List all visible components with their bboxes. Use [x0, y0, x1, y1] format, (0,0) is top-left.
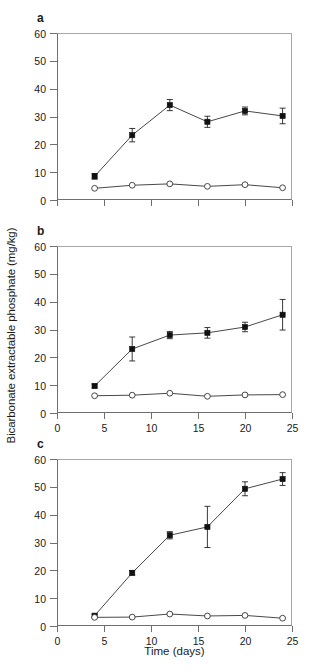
x-axis-title: Time (days) [57, 645, 292, 657]
data-point-filled-square-b-0 [92, 383, 97, 388]
y-tick-b-50: 50 [50, 274, 57, 275]
data-point-open-circle-b-2 [167, 390, 173, 396]
data-point-open-circle-a-2 [167, 181, 173, 187]
x-tick-label-b-20: 20 [240, 422, 252, 434]
y-tick-c-0: 0 [50, 626, 57, 627]
x-tick-label-b-5: 5 [102, 422, 108, 434]
y-tick-b-10: 10 [50, 385, 57, 386]
series-line-open-circle-c [95, 614, 283, 618]
y-tick-a-0: 0 [50, 200, 57, 201]
y-tick-label-b-40: 40 [34, 296, 46, 308]
series-line-filled-square-c [95, 479, 283, 616]
y-tick-a-20: 20 [50, 144, 57, 145]
x-tick-b-20: 20 [245, 413, 246, 419]
panel-label-b: b [37, 224, 44, 238]
y-tick-b-60: 60 [50, 246, 57, 247]
y-tick-label-a-40: 40 [34, 83, 46, 95]
y-tick-label-c-20: 20 [34, 565, 46, 577]
data-point-open-circle-c-4 [242, 613, 248, 619]
y-tick-label-a-20: 20 [34, 139, 46, 151]
y-tick-b-30: 30 [50, 330, 57, 331]
data-point-filled-square-a-1 [130, 133, 135, 138]
y-tick-a-60: 60 [50, 33, 57, 34]
data-point-open-circle-b-5 [280, 392, 286, 398]
y-tick-label-a-10: 10 [34, 167, 46, 179]
data-point-filled-square-a-0 [92, 174, 97, 179]
x-tick-label-b-10: 10 [146, 422, 158, 434]
chart-panel-c: c 01020304050600510152025 [57, 459, 292, 626]
y-tick-label-b-50: 50 [34, 268, 46, 280]
data-point-open-circle-c-1 [129, 614, 135, 620]
data-point-open-circle-b-1 [129, 392, 135, 398]
x-tick-a-0 [57, 200, 58, 206]
data-point-filled-square-c-5 [280, 476, 285, 481]
data-point-open-circle-a-5 [280, 185, 286, 191]
data-point-open-circle-b-0 [92, 393, 98, 399]
y-tick-c-10: 10 [50, 598, 57, 599]
y-tick-label-a-50: 50 [34, 55, 46, 67]
y-tick-label-c-30: 30 [34, 537, 46, 549]
y-tick-label-b-20: 20 [34, 352, 46, 364]
y-tick-a-40: 40 [50, 89, 57, 90]
x-tick-b-0: 0 [57, 413, 58, 419]
data-point-filled-square-b-2 [167, 332, 172, 337]
y-tick-label-a-30: 30 [34, 111, 46, 123]
data-point-filled-square-b-4 [242, 324, 247, 329]
y-tick-b-0: 0 [50, 413, 57, 414]
data-point-filled-square-a-2 [167, 102, 172, 107]
data-point-filled-square-b-1 [130, 346, 135, 351]
x-tick-b-25: 25 [292, 413, 293, 419]
y-tick-label-a-60: 60 [34, 28, 46, 40]
data-point-open-circle-a-0 [92, 185, 98, 191]
data-point-filled-square-a-5 [280, 113, 285, 118]
data-layer-c [57, 459, 292, 626]
x-tick-a-25 [292, 200, 293, 206]
x-tick-b-5: 5 [104, 413, 105, 419]
x-tick-a-20 [245, 200, 246, 206]
data-point-open-circle-a-4 [242, 182, 248, 188]
data-point-filled-square-b-3 [205, 330, 210, 335]
y-tick-label-b-0: 0 [40, 408, 46, 420]
data-point-filled-square-c-2 [167, 533, 172, 538]
x-tick-b-10: 10 [151, 413, 152, 419]
y-tick-c-60: 60 [50, 459, 57, 460]
panel-label-a: a [37, 11, 44, 25]
y-tick-c-20: 20 [50, 570, 57, 571]
x-tick-a-10 [151, 200, 152, 206]
data-point-filled-square-b-5 [280, 312, 285, 317]
x-tick-c-10: 10 [151, 626, 152, 632]
y-tick-b-20: 20 [50, 357, 57, 358]
y-tick-label-c-10: 10 [34, 593, 46, 605]
data-point-open-circle-c-0 [92, 614, 98, 620]
y-tick-c-30: 30 [50, 543, 57, 544]
panel-label-c: c [37, 437, 44, 451]
y-tick-a-30: 30 [50, 117, 57, 118]
x-tick-c-15: 15 [198, 626, 199, 632]
x-tick-label-b-25: 25 [287, 422, 299, 434]
x-tick-c-5: 5 [104, 626, 105, 632]
y-tick-label-b-30: 30 [34, 324, 46, 336]
data-layer-b [57, 246, 292, 413]
series-line-filled-square-b [95, 315, 283, 386]
y-tick-b-40: 40 [50, 302, 57, 303]
data-point-filled-square-c-1 [130, 570, 135, 575]
series-line-open-circle-b [95, 393, 283, 396]
data-point-filled-square-c-4 [242, 486, 247, 491]
chart-panel-a: a 0102030405060 [57, 33, 292, 200]
x-tick-b-15: 15 [198, 413, 199, 419]
chart-panel-b: b 01020304050600510152025 [57, 246, 292, 413]
data-point-open-circle-c-2 [167, 611, 173, 617]
y-tick-a-10: 10 [50, 172, 57, 173]
x-tick-a-5 [104, 200, 105, 206]
y-tick-label-c-60: 60 [34, 454, 46, 466]
data-point-open-circle-a-1 [129, 182, 135, 188]
data-point-open-circle-a-3 [205, 183, 211, 189]
x-tick-c-25: 25 [292, 626, 293, 632]
data-point-filled-square-a-3 [205, 119, 210, 124]
data-point-filled-square-a-4 [242, 108, 247, 113]
figure-panel-group: Bicarbonate extractable phosphate (mg/kg… [0, 0, 310, 671]
x-tick-label-b-0: 0 [55, 422, 61, 434]
data-point-open-circle-b-4 [242, 392, 248, 398]
x-tick-label-b-15: 15 [193, 422, 205, 434]
y-tick-c-40: 40 [50, 515, 57, 516]
